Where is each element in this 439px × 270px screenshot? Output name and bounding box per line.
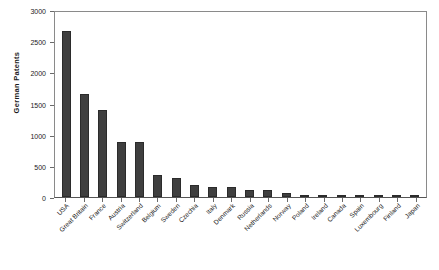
x-label-slot: Japan <box>407 200 425 268</box>
x-label-slot: Poland <box>296 200 314 268</box>
x-axis-category-labels: USAGreat BritainFranceAustriaSwitzerland… <box>54 200 427 268</box>
x-label-slot: USA <box>56 200 74 268</box>
bar-slot <box>149 12 167 197</box>
bar[interactable] <box>227 187 236 197</box>
bar-slot <box>295 12 313 197</box>
x-label-slot: Sweden <box>167 200 185 268</box>
bar[interactable] <box>318 195 327 197</box>
bar-slot <box>112 12 130 197</box>
y-tick-label: 3000 <box>30 8 46 15</box>
bar-slot <box>351 12 369 197</box>
bar-slot <box>130 12 148 197</box>
x-label-slot: Austria <box>111 200 129 268</box>
x-label-slot: Belgium <box>148 200 166 268</box>
bar-slot <box>185 12 203 197</box>
x-label-slot: Italy <box>204 200 222 268</box>
bar[interactable] <box>410 195 419 197</box>
bar-slot <box>167 12 185 197</box>
bar-series <box>55 12 426 197</box>
bar[interactable] <box>80 94 89 197</box>
y-tick-label: 2500 <box>30 39 46 46</box>
x-label-slot: Luxembourg <box>370 200 388 268</box>
bar[interactable] <box>135 142 144 197</box>
bar[interactable] <box>172 178 181 197</box>
x-label-slot: Netherlands <box>259 200 277 268</box>
y-tick-label: 2000 <box>30 70 46 77</box>
x-label-slot: Norway <box>277 200 295 268</box>
bar[interactable] <box>263 190 272 197</box>
x-label-slot: Switzerland <box>130 200 148 268</box>
bar[interactable] <box>337 195 346 197</box>
x-tick-label: Italy <box>204 202 218 216</box>
bar-slot <box>259 12 277 197</box>
bar[interactable] <box>117 142 126 197</box>
x-tick-label: Japan <box>403 202 421 220</box>
bar[interactable] <box>153 175 162 197</box>
bar-slot <box>369 12 387 197</box>
bar[interactable] <box>300 195 309 197</box>
bar-slot <box>75 12 93 197</box>
bar[interactable] <box>374 195 383 197</box>
x-label-slot: Great Britain <box>74 200 92 268</box>
bar-slot <box>94 12 112 197</box>
x-tick-label: USA <box>56 202 71 217</box>
bar-slot <box>277 12 295 197</box>
y-tick-label: 1000 <box>30 132 46 139</box>
y-axis-tick-labels: 050010001500200025003000 <box>0 0 52 198</box>
bar[interactable] <box>282 193 291 197</box>
bar-slot <box>204 12 222 197</box>
bar[interactable] <box>392 195 401 197</box>
bar-slot <box>314 12 332 197</box>
bar[interactable] <box>62 31 71 197</box>
bar-slot <box>406 12 424 197</box>
bar-slot <box>222 12 240 197</box>
bar[interactable] <box>190 185 199 197</box>
bar[interactable] <box>208 187 217 197</box>
y-tick-label: 500 <box>34 163 46 170</box>
x-label-slot: Denmark <box>222 200 240 268</box>
x-label-slot: Canada <box>333 200 351 268</box>
x-label-slot: Ireland <box>314 200 332 268</box>
x-label-slot: France <box>93 200 111 268</box>
bar[interactable] <box>245 190 254 197</box>
bar-chart: German Patents 050010001500200025003000 … <box>0 0 439 270</box>
bar[interactable] <box>98 110 107 197</box>
bar-slot <box>387 12 405 197</box>
x-label-slot: Finland <box>388 200 406 268</box>
y-tick-label: 1500 <box>30 101 46 108</box>
x-label-slot: Czechia <box>185 200 203 268</box>
bar[interactable] <box>355 195 364 197</box>
y-tick-label: 0 <box>42 195 46 202</box>
bar-slot <box>332 12 350 197</box>
bar-slot <box>57 12 75 197</box>
x-label-slot: Spain <box>351 200 369 268</box>
x-label-slot: Russia <box>241 200 259 268</box>
bar-slot <box>240 12 258 197</box>
plot-area <box>54 11 427 198</box>
